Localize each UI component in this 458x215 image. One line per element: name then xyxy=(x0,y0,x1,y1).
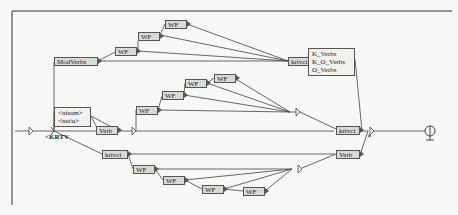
node-wf[interactable]: WF xyxy=(214,74,236,83)
node-wf[interactable]: WF xyxy=(243,187,265,196)
node-krivci[interactable]: krivci xyxy=(336,126,360,135)
verb-class-item: K_Verbs xyxy=(312,50,351,58)
node-wf[interactable]: WF xyxy=(162,91,184,100)
negation-item: <neću> xyxy=(58,117,87,125)
verb-class-item: K_O_Verbs xyxy=(312,58,351,66)
node-wf[interactable]: WF xyxy=(133,165,155,174)
node-wf[interactable]: WF xyxy=(165,20,187,29)
verb-class-item: O_Verbs xyxy=(312,66,351,74)
negation-box[interactable]: <nisam> <neću> xyxy=(54,107,91,127)
final-state-icon xyxy=(425,126,435,140)
node-wf[interactable]: WF xyxy=(115,47,137,56)
node-verb[interactable]: Verb xyxy=(96,126,118,135)
verb-classes-box[interactable]: K_Verbs K_O_Verbs O_Verbs xyxy=(308,48,355,76)
initial-state-label: <KRTV xyxy=(45,133,69,141)
node-verb[interactable]: Verb xyxy=(336,150,360,159)
node-modverbs[interactable]: ModVerbs xyxy=(54,57,98,66)
node-wf[interactable]: WF xyxy=(185,79,207,88)
node-wf[interactable]: WF xyxy=(202,185,224,194)
negation-item: <nisam> xyxy=(58,109,87,117)
node-wf[interactable]: WF xyxy=(136,106,158,115)
node-wf[interactable]: WF xyxy=(163,176,185,185)
node-wf[interactable]: WF xyxy=(138,32,160,41)
node-krivci[interactable]: krivci xyxy=(102,150,128,159)
